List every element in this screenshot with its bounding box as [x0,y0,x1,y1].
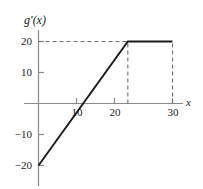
x-tick-label-20: 20 [104,107,126,118]
x-tick-label-30: 30 [162,107,184,118]
figure-graph-of-g-prime: g′(x) x 20 10 −10 −20 10 20 30 [0,0,203,189]
x-tick-label-10: 10 [66,107,88,118]
x-axis-label: x [186,97,191,108]
y-tick-label-20: 20 [10,36,32,47]
y-tick-label-minus-10: −10 [6,129,32,140]
y-axis-label: g′(x) [24,14,46,26]
y-tick-label-10: 10 [10,67,32,78]
y-tick-label-minus-20: −20 [6,160,32,171]
